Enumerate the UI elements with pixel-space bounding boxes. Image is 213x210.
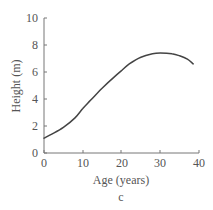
- y-tick-label: 0: [32, 146, 38, 160]
- y-tick-label: 2: [32, 119, 38, 133]
- y-tick-label: 6: [32, 65, 38, 79]
- x-tick-label: 10: [77, 156, 89, 170]
- x-tick-label: 30: [154, 156, 166, 170]
- x-axis-title: Age (years): [93, 173, 149, 187]
- figure-caption: c: [118, 190, 123, 204]
- y-tick-label: 10: [26, 11, 38, 25]
- x-tick-label: 20: [116, 156, 128, 170]
- y-tick-label: 8: [32, 38, 38, 52]
- x-tick-label: 0: [41, 156, 47, 170]
- height-curve: [44, 53, 193, 138]
- line-chart: 0 2 4 6 8 10 Height (m) 0 10 20 30 40 Ag…: [0, 0, 213, 210]
- y-axis-title: Height (m): [9, 60, 23, 113]
- x-axis: 0 10 20 30 40 Age (years): [41, 150, 205, 187]
- y-tick-label: 4: [32, 92, 38, 106]
- y-axis: 0 2 4 6 8 10 Height (m): [9, 11, 47, 160]
- x-tick-label: 40: [193, 156, 205, 170]
